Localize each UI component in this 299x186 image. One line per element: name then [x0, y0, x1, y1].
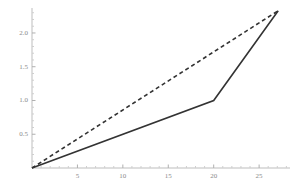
x-tick-label: 20	[210, 173, 217, 180]
data-series-group	[32, 11, 278, 168]
x-tick-label: 15	[165, 173, 172, 180]
chart-container: 510152025 0.51.01.52.0	[0, 0, 299, 186]
chart-plot-area	[0, 0, 299, 186]
y-tick-label: 2.0	[8, 29, 28, 36]
x-tick-label: 25	[256, 173, 263, 180]
x-tick-label: 5	[76, 173, 80, 180]
y-tick-label: 1.0	[8, 97, 28, 104]
y-tick-label: 0.5	[8, 131, 28, 138]
y-axis-major-ticks	[32, 33, 36, 134]
series-dashed-line	[32, 11, 278, 168]
y-tick-label: 1.5	[8, 63, 28, 70]
x-tick-label: 10	[119, 173, 126, 180]
